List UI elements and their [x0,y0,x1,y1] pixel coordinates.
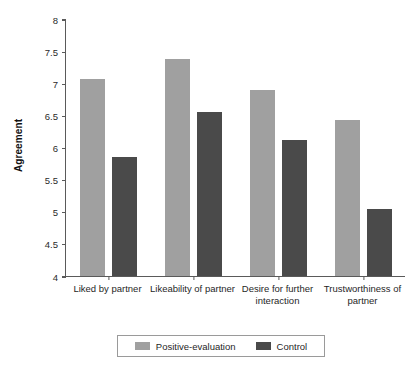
y-axis-tick-label: 4.5 [45,239,58,250]
legend-item-control: Control [256,341,308,352]
y-axis-tick: 8 [53,14,66,26]
legend-item-positive-evaluation: Positive-evaluation [135,341,236,352]
legend-item-label: Control [277,341,308,352]
y-axis-tick-label: 6 [53,143,58,154]
bar [197,112,222,276]
x-axis-tick-mark [363,276,364,280]
legend-swatch-icon [135,342,150,350]
x-axis-tick-mark [108,276,109,280]
bar [80,79,105,276]
y-axis-tick-label: 7 [53,79,58,90]
x-axis-tick-mark [193,276,194,280]
x-axis-category-label: Likeability of partner [145,283,241,295]
y-axis-tick: 4 [53,271,66,283]
legend-item-label: Positive-evaluation [156,341,236,352]
x-axis-labels: Liked by partnerLikeability of partnerDe… [65,283,405,323]
y-axis-tick-label: 5.5 [45,175,58,186]
y-axis-tick-label: 7.5 [45,47,58,58]
bar [335,120,360,276]
y-axis-title: Agreement [8,0,30,290]
bar [112,157,137,277]
bar-group [236,20,321,276]
bar-chart-figure: Agreement 44.555.566.577.58 Liked by par… [0,0,417,370]
y-axis-tick-label: 5 [53,207,58,218]
y-axis-tick-label: 8 [53,15,58,26]
y-axis-tick: 6.5 [45,110,66,122]
y-axis-tick: 5.5 [45,175,66,187]
y-axis-tick-mark [62,276,66,277]
y-axis-tick: 6 [53,143,66,155]
bar [250,90,275,276]
y-axis-title-label: Agreement [14,118,25,171]
bar [165,59,190,276]
x-axis-tick-mark [278,276,279,280]
x-axis-category-label: Trustworthiness of partner [315,283,411,306]
x-axis-category-label: Liked by partner [60,283,156,295]
y-axis-tick: 4.5 [45,239,66,251]
bar-group [321,20,406,276]
bar-group [151,20,236,276]
legend-swatch-icon [256,342,271,350]
y-axis-tick: 7.5 [45,46,66,58]
y-axis-tick: 7 [53,78,66,90]
y-axis-tick: 5 [53,207,66,219]
bar [282,140,307,276]
x-axis-category-label: Desire for further interaction [230,283,326,306]
y-axis-tick-label: 4 [53,272,58,283]
chart-legend: Positive-evaluation Control [117,335,325,357]
bar-group [66,20,151,276]
plot-area: 44.555.566.577.58 [65,20,405,277]
y-axis-tick-label: 6.5 [45,111,58,122]
bar [367,209,392,276]
